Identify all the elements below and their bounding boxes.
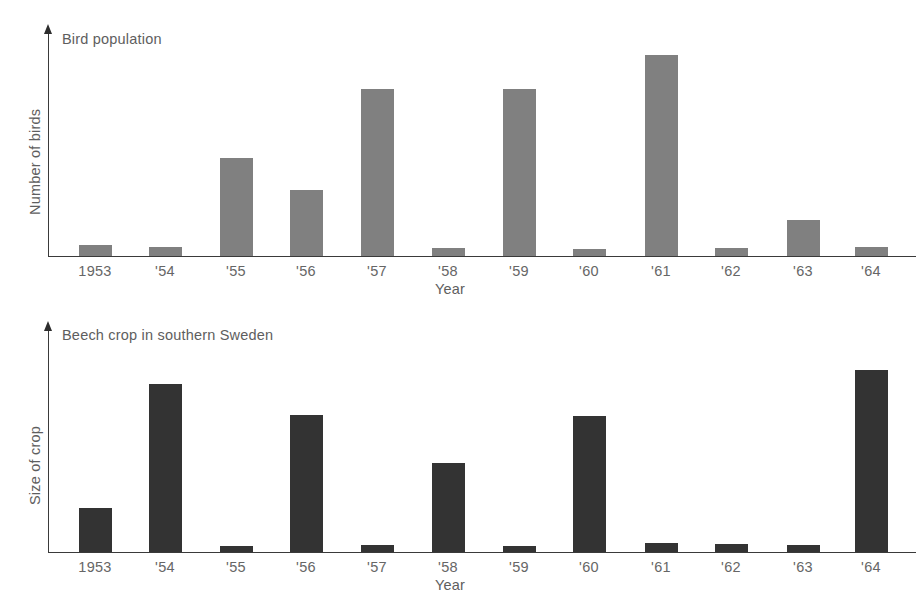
bar bbox=[855, 370, 888, 552]
bar bbox=[79, 245, 112, 256]
bar bbox=[79, 508, 112, 552]
x-tick-label: '59 bbox=[484, 263, 554, 279]
bar bbox=[503, 546, 536, 552]
bar bbox=[361, 545, 394, 552]
bar bbox=[220, 546, 253, 552]
bar bbox=[645, 543, 678, 552]
bar bbox=[290, 415, 323, 552]
bar bbox=[432, 463, 465, 552]
x-tick-label: '60 bbox=[554, 559, 624, 575]
bar bbox=[787, 545, 820, 552]
chart-beech-crop: Beech crop in southern Sweden Size of cr… bbox=[0, 300, 916, 597]
x-axis-title-birds: Year bbox=[425, 281, 475, 297]
x-tick-label: '61 bbox=[626, 559, 696, 575]
x-tick-label: '54 bbox=[130, 263, 200, 279]
x-tick-label: '57 bbox=[342, 559, 412, 575]
x-tick-label: '62 bbox=[696, 263, 766, 279]
x-tick-label: '54 bbox=[130, 559, 200, 575]
chart-bird-population: Bird population Number of birds Year 195… bbox=[0, 0, 916, 300]
x-axis-line-beech bbox=[48, 552, 916, 553]
y-axis-title-beech: Size of crop bbox=[27, 426, 43, 505]
x-tick-label: '58 bbox=[413, 263, 483, 279]
x-tick-label: '64 bbox=[836, 559, 906, 575]
bar bbox=[573, 416, 606, 552]
bar bbox=[149, 384, 182, 552]
x-tick-label: '56 bbox=[271, 559, 341, 575]
bar bbox=[715, 544, 748, 552]
x-tick-label: '60 bbox=[554, 263, 624, 279]
y-axis-line-birds bbox=[48, 33, 49, 257]
bar bbox=[503, 89, 536, 256]
bird-beech-figure: Bird population Number of birds Year 195… bbox=[0, 0, 916, 597]
x-tick-label: 1953 bbox=[60, 263, 130, 279]
chart-title-beech-crop: Beech crop in southern Sweden bbox=[62, 327, 273, 343]
x-tick-label: '64 bbox=[836, 263, 906, 279]
bar bbox=[645, 55, 678, 256]
bar bbox=[787, 220, 820, 256]
x-tick-label: '61 bbox=[626, 263, 696, 279]
bar bbox=[290, 190, 323, 256]
x-axis-title-beech: Year bbox=[425, 577, 475, 593]
bar bbox=[149, 247, 182, 256]
x-tick-label: '57 bbox=[342, 263, 412, 279]
x-axis-line-birds bbox=[48, 256, 916, 257]
bar bbox=[361, 89, 394, 256]
x-tick-label: 1953 bbox=[60, 559, 130, 575]
x-tick-label: '63 bbox=[768, 559, 838, 575]
x-tick-label: '58 bbox=[413, 559, 483, 575]
chart-title-bird-population: Bird population bbox=[62, 31, 162, 47]
bar bbox=[855, 247, 888, 256]
x-tick-label: '56 bbox=[271, 263, 341, 279]
bar bbox=[715, 248, 748, 256]
bar bbox=[573, 249, 606, 256]
bar bbox=[432, 248, 465, 256]
x-tick-label: '55 bbox=[201, 263, 271, 279]
y-axis-line-beech bbox=[48, 330, 49, 552]
x-tick-label: '62 bbox=[696, 559, 766, 575]
x-tick-label: '55 bbox=[201, 559, 271, 575]
y-axis-title-birds: Number of birds bbox=[27, 109, 43, 215]
x-tick-label: '63 bbox=[768, 263, 838, 279]
x-tick-label: '59 bbox=[484, 559, 554, 575]
bar bbox=[220, 158, 253, 256]
